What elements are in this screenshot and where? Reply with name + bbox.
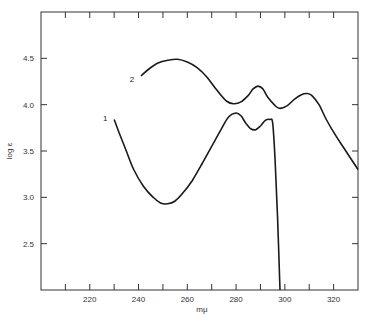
curve-labels: 12 — [103, 75, 135, 123]
x-axis-ticks — [65, 12, 333, 290]
x-tick-label: 220 — [83, 295, 97, 304]
curve-1 — [114, 113, 280, 290]
x-tick-label: 320 — [327, 295, 341, 304]
y-tick-label: 2.5 — [23, 240, 35, 249]
y-axis-tick-labels: 2.53.03.54.04.5 — [23, 54, 35, 248]
x-tick-label: 260 — [181, 295, 195, 304]
y-tick-label: 4.0 — [23, 101, 35, 110]
curve-label-1: 1 — [103, 114, 108, 123]
y-tick-label: 4.5 — [23, 54, 35, 63]
data-series — [114, 59, 358, 290]
y-tick-label: 3.5 — [23, 147, 35, 156]
y-axis-label: log ε — [5, 142, 14, 159]
y-axis-ticks — [41, 58, 358, 243]
x-tick-label: 300 — [278, 295, 292, 304]
x-tick-label: 280 — [229, 295, 243, 304]
uv-spectrum-chart: 220240260280300320 2.53.03.54.04.5 12 mμ… — [0, 0, 366, 317]
curve-label-2: 2 — [130, 75, 135, 84]
plot-frame — [41, 12, 358, 290]
x-axis-label: mμ — [196, 305, 208, 314]
y-tick-label: 3.0 — [23, 193, 35, 202]
x-tick-label: 240 — [132, 295, 146, 304]
x-axis-tick-labels: 220240260280300320 — [83, 295, 341, 304]
curve-2 — [141, 59, 358, 169]
